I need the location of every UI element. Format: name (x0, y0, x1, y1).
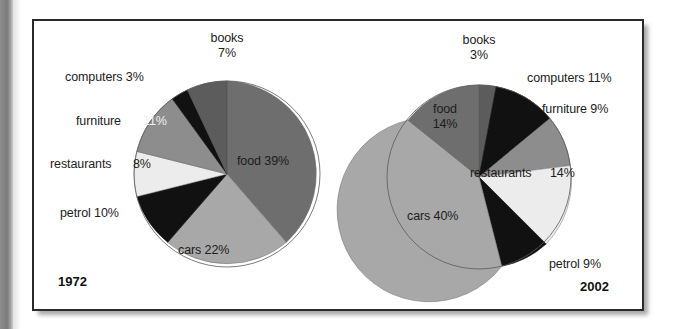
scan-edge-strip (0, 0, 13, 329)
chart-area: books 7% computers 3% furniture 11% rest… (34, 21, 642, 309)
label-2002-books: books 3% (444, 33, 514, 63)
label-2002-petrol: petrol 9% (549, 257, 601, 272)
label-2002-restaurants-pct: 14% (550, 166, 575, 181)
label-2002-food: food 14% (420, 102, 470, 132)
label-2002-cars: cars 40% (407, 209, 458, 224)
label-2002-books-line2: 3% (444, 48, 514, 63)
label-2002-food-line1: food (420, 102, 470, 117)
label-1972-books-line1: books (189, 31, 265, 46)
label-1972-restaurants: restaurants (50, 157, 111, 172)
label-2002-food-line2: 14% (420, 117, 470, 132)
figure-page: books 7% computers 3% furniture 11% rest… (0, 0, 677, 329)
label-1972-books: books 7% (189, 31, 265, 61)
year-label-1972: 1972 (58, 274, 87, 289)
scan-edge-gradient (13, 0, 20, 329)
label-2002-computers: computers 11% (527, 71, 612, 86)
label-1972-cars: cars 22% (178, 243, 229, 258)
chart-frame: books 7% computers 3% furniture 11% rest… (32, 19, 644, 311)
label-1972-furniture: furniture (76, 114, 121, 129)
label-1972-food: food 39% (237, 154, 289, 169)
year-label-2002: 2002 (580, 279, 609, 294)
label-1972-computers: computers 3% (65, 70, 144, 85)
label-2002-restaurants: restaurants (470, 166, 531, 181)
label-2002-books-line1: books (444, 33, 514, 48)
label-1972-furniture-pct: 11% (143, 114, 167, 129)
label-1972-petrol: petrol 10% (60, 206, 119, 221)
label-2002-furniture: furniture 9% (542, 102, 608, 117)
label-1972-books-line2: 7% (189, 46, 265, 61)
label-1972-restaurants-pct: 8% (133, 157, 151, 172)
